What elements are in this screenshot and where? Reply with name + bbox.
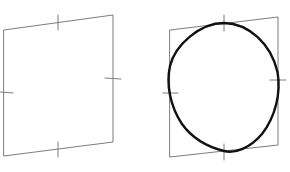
- figure-canvas: [0, 0, 290, 172]
